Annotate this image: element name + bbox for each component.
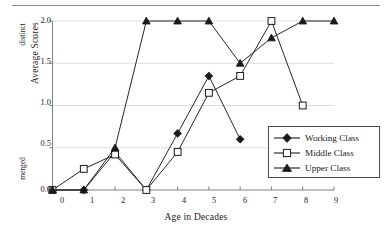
x-axis-ticks — [53, 187, 335, 191]
data-point-filled-triangle — [268, 34, 276, 41]
data-point-filled-diamond — [237, 136, 244, 143]
legend-marker-filled-diamond — [273, 131, 301, 145]
chart-figure: Average Scores Age in Decades merged dis… — [0, 0, 386, 235]
data-point-open-square — [143, 187, 150, 194]
data-point-open-square — [174, 149, 181, 156]
legend-label: Upper Class — [301, 163, 350, 173]
x-tick-label: 7 — [265, 196, 285, 205]
x-axis-title: Age in Decades — [96, 212, 296, 222]
y-tick-label: 1.5 — [17, 57, 51, 66]
x-tick-label: 5 — [204, 196, 224, 205]
data-point-filled-diamond — [205, 72, 212, 79]
legend-item-working-class[interactable]: Working Class — [269, 130, 379, 145]
data-point-filled-triangle — [236, 59, 244, 66]
x-tick-label: 8 — [296, 196, 316, 205]
x-tick-label: 1 — [82, 196, 102, 205]
y-tick-label: 0.5 — [17, 139, 51, 148]
y-tick-label: 0.0 — [17, 185, 51, 194]
data-point-open-square — [205, 89, 212, 96]
data-point-filled-triangle — [111, 144, 119, 151]
x-tick-label: 9 — [326, 196, 346, 205]
data-point-open-square — [237, 73, 244, 80]
legend-marker-open-square — [273, 146, 301, 160]
legend-label: Working Class — [301, 133, 359, 143]
data-point-open-square — [299, 102, 306, 109]
data-point-open-square — [268, 18, 275, 25]
legend-item-middle-class[interactable]: Middle Class — [269, 145, 379, 160]
legend-item-upper-class[interactable]: Upper Class — [269, 160, 379, 175]
x-tick-label: 2 — [113, 196, 133, 205]
data-point-open-square — [80, 165, 87, 172]
y-tick-label: 1.0 — [17, 98, 51, 107]
x-tick-label: 0 — [52, 196, 72, 205]
data-point-filled-diamond — [174, 130, 181, 137]
y-tick-label: 2.0 — [17, 16, 51, 25]
chart-legend: Working Class Middle Class Upper Class — [268, 126, 380, 178]
series-working-class — [49, 72, 244, 193]
data-point-open-square — [112, 151, 119, 158]
x-tick-label: 6 — [235, 196, 255, 205]
legend-label: Middle Class — [301, 148, 354, 158]
top-divider-rule — [12, 5, 380, 6]
legend-marker-filled-triangle — [273, 161, 301, 175]
x-tick-label: 3 — [143, 196, 163, 205]
x-tick-label: 4 — [174, 196, 194, 205]
